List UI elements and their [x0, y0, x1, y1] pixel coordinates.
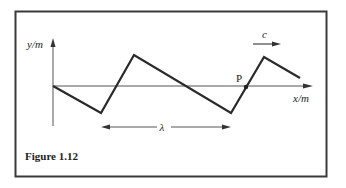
waveform [53, 55, 300, 113]
point-p-label: P [236, 72, 242, 84]
wavelength-arrow [101, 125, 231, 130]
y-axis [51, 38, 56, 126]
speed-arrow-icon [272, 42, 281, 47]
speed-label: c [262, 28, 267, 40]
x-axis-label: x/m [292, 92, 309, 104]
wavelength-label: λ [159, 121, 165, 133]
figure-canvas: y/m x/m P λ c Figure 1.12 [0, 0, 346, 188]
wavelength-left-arrow-icon [101, 125, 110, 130]
point-p-marker [244, 85, 248, 89]
speed-arrow [253, 42, 281, 47]
figure-caption: Figure 1.12 [25, 150, 78, 162]
y-axis-arrow-icon [51, 38, 56, 47]
y-axis-label: y/m [26, 38, 43, 50]
x-axis-arrow-icon [303, 84, 313, 89]
wavelength-right-arrow-icon [222, 125, 231, 130]
